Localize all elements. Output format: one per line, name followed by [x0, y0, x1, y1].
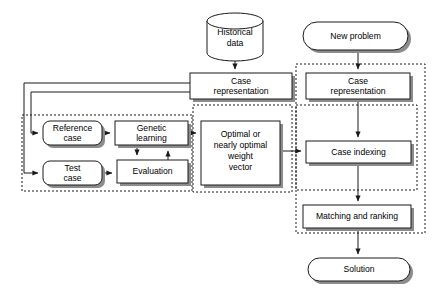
genetic-learning-label-line1: Genetic: [137, 123, 167, 133]
node-genetic-learning: Genetic learning: [115, 121, 191, 148]
node-case-representation-left: Case representation: [190, 73, 295, 102]
test-case-label-line2: case: [63, 173, 81, 183]
matching-and-ranking-label: Matching and ranking: [316, 211, 398, 221]
case-indexing-label: Case indexing: [331, 147, 386, 157]
weight-vector-label-line2: nearly optimal: [214, 140, 268, 150]
weight-vector-label-line1: Optimal or: [221, 129, 261, 139]
weight-vector-label-line3: weight: [227, 151, 253, 161]
case-representation-right-label-line2: representation: [331, 86, 386, 96]
node-reference-case: Reference case: [43, 121, 105, 148]
node-evaluation: Evaluation: [117, 160, 191, 186]
case-representation-right-label-line1: Case: [348, 76, 368, 86]
node-weight-vector: Optimal or nearly optimal weight vector: [201, 121, 283, 188]
historical-data-label-line2: data: [227, 38, 244, 48]
reference-case-label-line1: Reference: [53, 123, 93, 133]
solution-label: Solution: [343, 264, 374, 274]
node-solution: Solution: [308, 258, 413, 284]
node-historical-data: Historical data: [207, 13, 263, 61]
node-new-problem: New problem: [303, 22, 411, 53]
test-case-label-line1: Test: [65, 163, 81, 173]
evaluation-label: Evaluation: [132, 166, 172, 176]
case-representation-left-label-line2: representation: [214, 86, 269, 96]
node-matching-and-ranking: Matching and ranking: [303, 205, 414, 231]
new-problem-label: New problem: [330, 31, 381, 41]
diagram-canvas: Historical data New problem Case represe…: [0, 0, 448, 294]
node-case-representation-right: Case representation: [306, 73, 413, 102]
reference-case-label-line2: case: [63, 133, 81, 143]
flowchart-diagram: Historical data New problem Case represe…: [0, 0, 448, 294]
weight-vector-label-line4: vector: [229, 162, 253, 172]
node-test-case: Test case: [43, 161, 105, 188]
case-representation-left-label-line1: Case: [231, 76, 251, 86]
genetic-learning-label-line2: learning: [136, 133, 167, 143]
node-case-indexing: Case indexing: [306, 141, 414, 166]
historical-data-label-line1: Historical: [217, 27, 252, 37]
